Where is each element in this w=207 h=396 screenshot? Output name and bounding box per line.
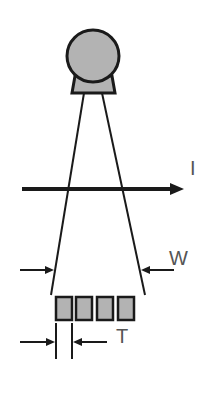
width-dimension: [20, 266, 174, 274]
arrowhead-icon: [45, 266, 54, 274]
arrowhead-icon: [170, 183, 184, 195]
width-label: W: [169, 248, 188, 268]
detector-array: [56, 297, 134, 320]
detector-element: [56, 297, 72, 320]
arrowhead-icon: [73, 338, 82, 346]
diagram-canvas: [0, 0, 207, 396]
current-label: I: [190, 158, 196, 178]
source-head: [67, 30, 119, 82]
arrowhead-icon: [141, 266, 150, 274]
arrowhead-icon: [46, 338, 55, 346]
thickness-label: T: [116, 326, 128, 346]
detector-element: [118, 297, 134, 320]
detector-element: [76, 297, 92, 320]
beam-left-edge: [51, 93, 84, 295]
source-emitter: [67, 30, 119, 93]
current-arrow: [22, 183, 184, 195]
thickness-dimension: [20, 323, 107, 359]
detector-element: [97, 297, 113, 320]
beam-right-edge: [102, 93, 145, 295]
